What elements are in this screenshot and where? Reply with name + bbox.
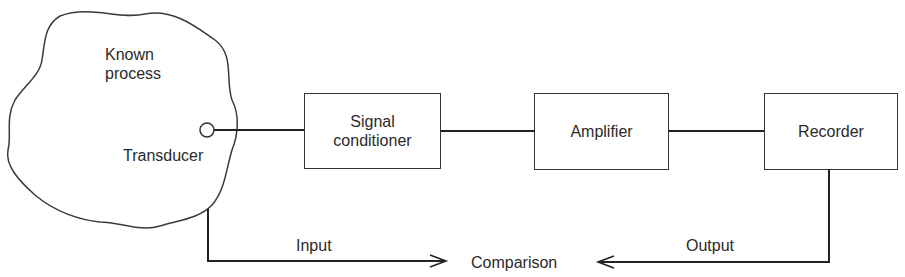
signal-conditioner-line1: Signal (333, 112, 411, 131)
amplifier-label: Amplifier (570, 122, 632, 141)
output-label: Output (686, 236, 734, 255)
signal-conditioner-line2: conditioner (333, 131, 411, 150)
known-process-line2: process (105, 64, 161, 83)
input-label: Input (296, 236, 332, 255)
known-process-label: Known process (105, 45, 161, 83)
comparison-label: Comparison (471, 253, 557, 272)
recorder-label: Recorder (798, 122, 864, 141)
recorder-block: Recorder (764, 93, 898, 170)
signal-conditioner-block: Signal conditioner (304, 93, 441, 169)
transducer-label: Transducer (123, 146, 203, 165)
known-process-line1: Known (105, 45, 161, 64)
amplifier-block: Amplifier (534, 93, 669, 170)
transducer-icon (200, 123, 214, 137)
